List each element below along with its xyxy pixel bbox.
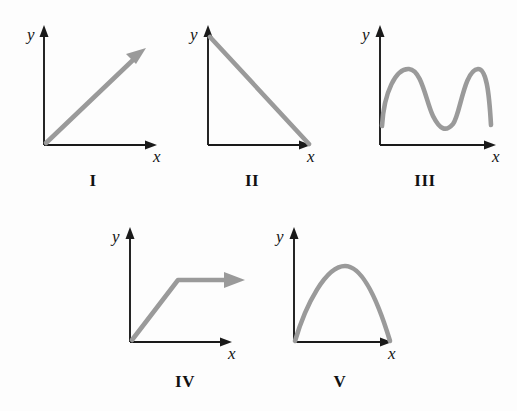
y-axis-label: y [276,228,284,245]
graph-II-svg [185,18,335,158]
graph-V-svg [268,218,428,358]
panel-label-V: V [310,373,370,390]
graph-panel-II: y x [185,18,335,158]
graph-IV-svg [105,218,265,358]
x-axis-label: x [228,345,236,362]
y-axis-label: y [27,26,35,43]
y-axis-label: y [112,228,120,245]
x-axis-label: x [153,148,161,165]
curve-I [46,60,133,143]
graph-panel-V: y x [268,218,428,358]
graph-III-svg [352,18,512,158]
graph-panel-IV: y x [105,218,265,358]
x-axis-label: x [492,148,500,165]
curve-III [382,69,491,129]
curve-IV-arrowhead [224,272,245,288]
y-axis-label: y [362,26,370,43]
y-axis-label: y [190,26,198,43]
graph-panel-figure: y x I y x II y x II [0,0,517,411]
panel-label-II: II [222,172,282,189]
curve-IV [132,280,227,340]
x-axis-label: x [388,345,396,362]
graph-panel-III: y x [352,18,512,158]
x-axis-label: x [307,148,315,165]
curve-II [210,37,309,144]
y-axis-arrowhead [290,227,299,239]
graph-panel-I: y x [20,18,170,158]
panel-label-IV: IV [155,373,215,390]
y-axis-arrowhead [126,227,135,239]
y-axis-arrowhead [40,25,49,37]
graph-I-svg [20,18,170,158]
y-axis-arrowhead [376,25,385,37]
panel-label-III: III [395,172,455,189]
panel-label-I: I [63,172,123,189]
curve-V [295,266,390,341]
